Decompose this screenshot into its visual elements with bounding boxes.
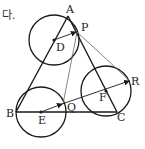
label-f: F bbox=[99, 91, 107, 104]
segment-pq bbox=[63, 32, 77, 104]
label-c: C bbox=[117, 111, 125, 124]
vector-eq bbox=[41, 104, 62, 112]
segment-pr bbox=[77, 32, 130, 81]
side-ac bbox=[68, 16, 117, 112]
label-a: A bbox=[65, 3, 75, 16]
header-text: 다. bbox=[2, 9, 16, 22]
label-d: D bbox=[56, 41, 65, 54]
label-e: E bbox=[38, 114, 46, 127]
label-q: Q bbox=[67, 101, 76, 114]
label-r: R bbox=[131, 75, 140, 88]
geometry-diagram: 다. A P D R F Q B E C bbox=[0, 0, 145, 149]
label-b: B bbox=[6, 107, 14, 120]
label-p: P bbox=[81, 21, 89, 34]
